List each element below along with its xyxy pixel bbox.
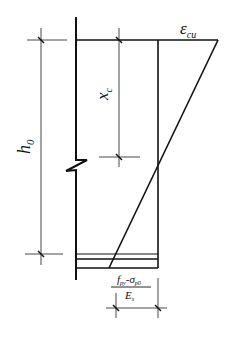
diagram-svg: εcu xc h0 fpy-σp0 Es bbox=[0, 0, 230, 337]
xc-label: xc bbox=[93, 87, 114, 101]
epsilon-cu-label: εcu bbox=[180, 19, 196, 40]
steel-strain-denominator: Es bbox=[124, 289, 135, 302]
svg-text:xc: xc bbox=[93, 87, 114, 101]
svg-text:h0: h0 bbox=[14, 139, 36, 154]
steel-strain-numerator: fpy-σp0 bbox=[117, 273, 141, 286]
h0-label: h0 bbox=[14, 139, 36, 154]
strain-diagram: εcu xc h0 fpy-σp0 Es bbox=[0, 0, 230, 337]
strain-profile-line bbox=[109, 40, 218, 268]
section-left-edge bbox=[66, 17, 87, 280]
